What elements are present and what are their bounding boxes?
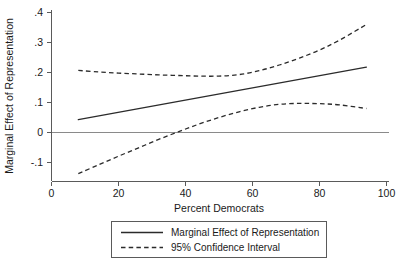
x-tick-label-4: 80 bbox=[314, 187, 326, 199]
x-tick-label-3: 60 bbox=[247, 187, 259, 199]
y-tick-label-5: -.1 bbox=[31, 156, 43, 168]
x-tick-label-1: 20 bbox=[113, 187, 125, 199]
x-tick-label-2: 40 bbox=[180, 187, 192, 199]
y-tick-label-0: .4 bbox=[34, 6, 43, 18]
y-tick-label-1: .3 bbox=[34, 36, 43, 48]
x-axis-title: Percent Democrats bbox=[174, 202, 264, 214]
chart-legend: Marginal Effect of Representation 95% Co… bbox=[112, 222, 327, 258]
y-tick-label-4: 0 bbox=[37, 126, 43, 138]
y-tick-label-3: .1 bbox=[34, 96, 43, 108]
marginal-effect-chart: .4 .3 .2 .1 0 -.1 0 20 40 60 80 100 Perc… bbox=[0, 0, 397, 260]
y-axis-title: Marginal Effect of Representation bbox=[3, 18, 15, 174]
chart-figure: .4 .3 .2 .1 0 -.1 0 20 40 60 80 100 Perc… bbox=[0, 0, 397, 260]
y-tick-label-2: .2 bbox=[34, 66, 43, 78]
legend-label-marginal-effect: Marginal Effect of Representation bbox=[171, 227, 319, 238]
x-tick-label-5: 100 bbox=[378, 187, 396, 199]
legend-label-confidence-interval: 95% Confidence Interval bbox=[171, 242, 280, 253]
x-tick-label-0: 0 bbox=[49, 187, 55, 199]
